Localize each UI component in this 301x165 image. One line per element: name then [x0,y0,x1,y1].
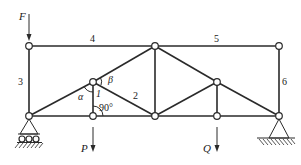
member-label-1: 1 [96,88,101,99]
node-bottom-4 [214,113,221,120]
labels: F P Q 4 5 3 6 1 2 α β 90° [18,10,287,154]
truss-members [29,46,279,116]
load-P-arrowhead [91,145,96,152]
load-F-label: F [18,10,26,22]
right-rafter-upper [155,46,217,82]
node-top-left [26,43,33,50]
node-bottom-center [152,113,159,120]
member-label-5: 5 [214,33,219,44]
load-Q-arrowhead [215,145,220,152]
node-upper-left [90,79,97,86]
node-upper-right [214,79,221,86]
alpha-arc [84,87,93,92]
load-F-arrowhead [27,34,32,41]
node-bottom-2 [90,113,97,120]
node-top-right [276,43,283,50]
member-label-2: 2 [133,90,138,101]
load-arrows [27,14,220,152]
right-diagonal [155,82,217,116]
load-P-label: P [80,142,88,154]
node-top-center [152,43,159,50]
truss-diagram: F P Q 4 5 3 6 1 2 α β 90° [0,0,301,165]
beta-arc [101,78,102,85]
load-Q-label: Q [203,142,211,154]
truss-nodes [26,43,283,120]
member-label-4: 4 [90,33,95,44]
left-rafter-lower [29,82,93,116]
angle-alpha-label: α [78,91,84,102]
member-label-6: 6 [282,76,287,87]
right-rafter-lower [217,82,279,116]
angle-beta-label: β [107,74,113,85]
angle-90-label: 90° [99,102,113,113]
member-label-3: 3 [18,76,23,87]
pin-support-right [257,119,295,145]
roller-support-left [15,119,43,148]
left-rafter-upper [93,46,155,82]
